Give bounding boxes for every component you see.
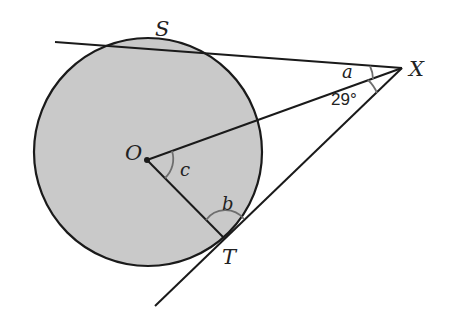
angle-arc-a [370, 66, 373, 79]
circle-tangent-diagram: S X O T a c b 29° [0, 0, 465, 314]
label-t: T [222, 245, 238, 269]
center-point [144, 157, 150, 163]
circle [34, 38, 262, 266]
label-s: S [155, 17, 169, 41]
label-x: X [407, 57, 425, 81]
label-o: O [125, 141, 142, 165]
angle-label-a: a [342, 61, 353, 82]
angle-label-29: 29° [331, 90, 357, 109]
angle-label-b: b [222, 193, 234, 214]
angle-arc-29 [368, 80, 377, 93]
angle-label-c: c [180, 159, 190, 180]
